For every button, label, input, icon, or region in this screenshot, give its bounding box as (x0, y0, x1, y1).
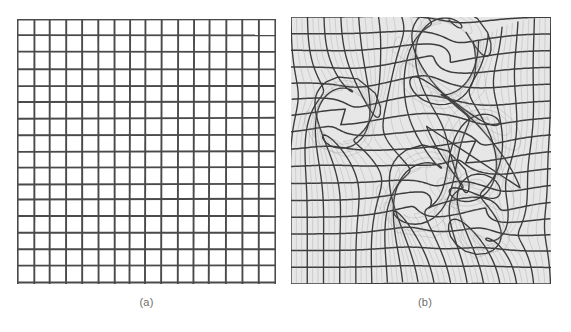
grid-line-horizontal (17, 184, 276, 185)
caption-panel-b: (b) (292, 296, 558, 308)
regular-grid-svg (17, 19, 276, 284)
grid-line-horizontal (17, 118, 276, 119)
grid-line-horizontal (17, 151, 276, 152)
distorted-grid-line-horizontal (291, 283, 551, 284)
grid-line-horizontal (17, 199, 276, 200)
distorted-grid-svg (291, 17, 551, 284)
panel-b-distorted-grid (291, 17, 551, 284)
caption-panel-a: (a) (0, 296, 293, 308)
grid-line-horizontal (17, 167, 276, 168)
panel-a-regular-grid (17, 19, 276, 284)
figure-root: (a) (b) (0, 0, 571, 332)
